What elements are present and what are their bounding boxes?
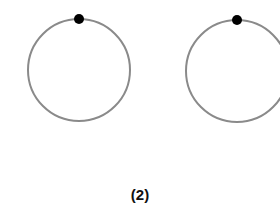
figure-label: (2) <box>0 186 280 203</box>
right-circle-group <box>186 15 280 122</box>
left-circle-group <box>28 14 130 121</box>
left-circle <box>28 19 130 121</box>
right-circle <box>186 20 280 122</box>
diagram-canvas <box>0 0 280 207</box>
right-point-dot <box>232 15 242 25</box>
left-point-dot <box>74 14 84 24</box>
